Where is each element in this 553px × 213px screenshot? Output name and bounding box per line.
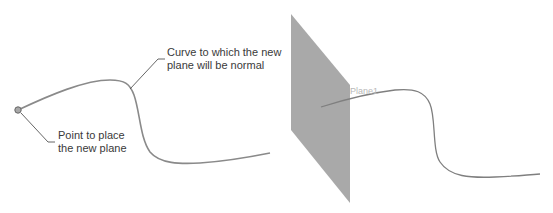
curve-leader-line [130, 59, 165, 89]
diagram-canvas [0, 0, 553, 213]
plane-label: Plane1 [350, 86, 378, 96]
curve-callout-line1: Curve to which the new [167, 46, 281, 59]
curve-callout-line2: plane will be normal [167, 59, 281, 72]
point-marker-icon [15, 107, 21, 113]
point-callout: Point to place the new plane [58, 129, 127, 154]
plane-surface [291, 14, 350, 203]
source-curve [18, 80, 270, 163]
curve-callout: Curve to which the new plane will be nor… [167, 46, 281, 71]
point-leader-line [21, 113, 55, 142]
point-callout-line1: Point to place [58, 129, 127, 142]
point-callout-line2: the new plane [58, 142, 127, 155]
normal-curve [321, 90, 540, 178]
